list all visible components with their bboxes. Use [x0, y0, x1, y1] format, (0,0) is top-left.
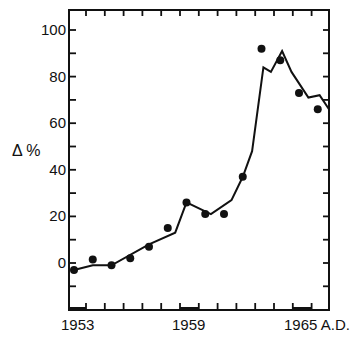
y-tick-label: 40 [49, 162, 66, 177]
data-point [201, 210, 209, 218]
data-point [295, 89, 303, 97]
data-point [258, 45, 266, 53]
model-line [74, 51, 329, 270]
y-tick-label: 20 [49, 208, 66, 223]
x-tick-label: 1953 [61, 317, 94, 332]
data-point [70, 266, 78, 274]
data-point [126, 254, 134, 262]
data-point [276, 56, 284, 64]
data-point [89, 256, 97, 264]
data-point [239, 173, 247, 181]
data-point [183, 198, 191, 206]
y-axis-title: Δ % [12, 142, 40, 160]
y-tick-label: 100 [41, 22, 66, 37]
data-point [220, 210, 228, 218]
x-tick-label: 1959 [172, 317, 205, 332]
y-tick-label: 0 [58, 255, 66, 270]
data-point [314, 105, 322, 113]
y-tick-label: 60 [49, 115, 66, 130]
data-point [108, 261, 116, 269]
data-point [145, 243, 153, 251]
data-point [164, 224, 172, 232]
x-tick-label: 1965 A.D. [284, 317, 350, 332]
observed-points [70, 45, 322, 274]
y-tick-label: 80 [49, 69, 66, 84]
